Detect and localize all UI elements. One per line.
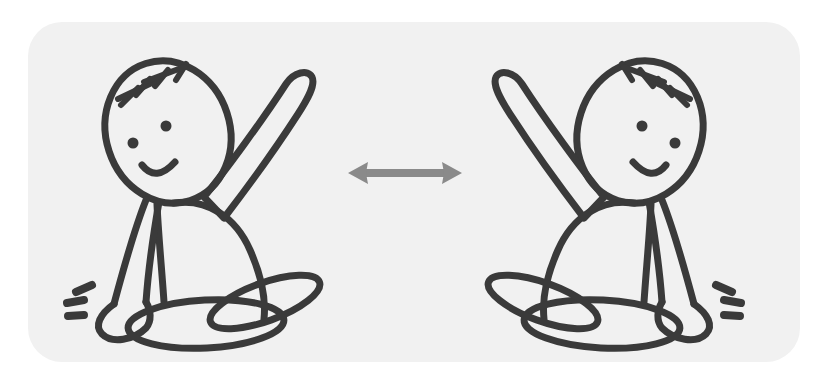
support-hand — [658, 302, 710, 340]
stick-figure-left — [58, 22, 378, 362]
motion-marks — [716, 285, 741, 316]
eye-left — [670, 138, 681, 149]
motion-marks — [67, 285, 92, 316]
support-hand — [98, 302, 150, 340]
support-arm-outer — [114, 200, 146, 304]
eye-right — [637, 121, 648, 132]
support-arm-outer — [662, 200, 694, 304]
eye-left — [128, 138, 139, 149]
illustration-stage: Seated side stretch — alternate sides Tw… — [0, 0, 820, 386]
arrow-head-left — [348, 162, 368, 184]
stick-figure-right — [430, 22, 750, 362]
illustration-card — [28, 22, 800, 362]
mouth-smile — [633, 162, 666, 173]
eye-right — [161, 121, 172, 132]
mouth-smile — [142, 162, 175, 173]
stick-figure-right-drawing — [430, 22, 750, 362]
stick-figure-left-drawing — [58, 22, 378, 362]
